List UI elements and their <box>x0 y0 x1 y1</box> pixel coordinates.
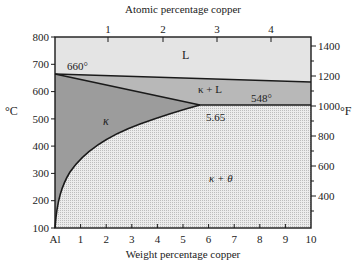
phase-diagram-chart: 800 700 600 500 400 300 200 100 °C 1400 … <box>0 0 356 263</box>
svg-text:6: 6 <box>206 233 212 245</box>
bottom-axis-labels: Al 1 2 3 4 5 6 7 8 9 10 <box>50 233 318 245</box>
svg-text:1: 1 <box>78 233 84 245</box>
svg-text:500: 500 <box>33 113 50 125</box>
svg-text:800: 800 <box>318 130 335 142</box>
svg-text:4: 4 <box>268 23 274 35</box>
melting-point-label: 660° <box>67 60 88 72</box>
right-axis-ticks <box>311 46 316 211</box>
right-axis-unit: °F <box>340 104 352 118</box>
region-label-kappa-plus-theta: κ + θ <box>209 172 233 184</box>
svg-text:3: 3 <box>129 233 135 245</box>
left-axis-labels: 800 700 600 500 400 300 200 100 <box>33 31 50 234</box>
svg-text:700: 700 <box>33 58 50 70</box>
svg-text:300: 300 <box>33 167 50 179</box>
region-label-liquid: L <box>182 48 189 62</box>
svg-text:2: 2 <box>160 23 166 35</box>
svg-text:400: 400 <box>33 140 50 152</box>
svg-text:1: 1 <box>105 23 111 35</box>
svg-text:2: 2 <box>103 233 109 245</box>
region-label-kappa-plus-liquid: κ + L <box>198 83 222 95</box>
svg-text:800: 800 <box>33 31 50 43</box>
svg-text:600: 600 <box>318 160 335 172</box>
max-solubility-label: 5.65 <box>206 111 226 123</box>
svg-text:8: 8 <box>257 233 263 245</box>
left-axis-unit: °C <box>5 104 18 118</box>
svg-text:Al: Al <box>50 233 61 245</box>
svg-text:4: 4 <box>155 233 161 245</box>
right-axis-labels: 1400 1200 1000 800 600 400 <box>318 40 341 202</box>
svg-text:600: 600 <box>33 85 50 97</box>
svg-text:3: 3 <box>214 23 220 35</box>
svg-text:1400: 1400 <box>318 40 341 52</box>
svg-text:9: 9 <box>283 233 289 245</box>
region-label-kappa: κ <box>103 114 109 128</box>
svg-text:1000: 1000 <box>318 100 341 112</box>
svg-text:400: 400 <box>318 190 335 202</box>
svg-text:7: 7 <box>231 233 237 245</box>
bottom-axis-title: Weight percentage copper <box>126 248 241 260</box>
top-axis-labels: 1 2 3 4 <box>105 23 274 35</box>
svg-text:100: 100 <box>33 222 50 234</box>
svg-text:10: 10 <box>306 233 318 245</box>
svg-text:1200: 1200 <box>318 70 341 82</box>
top-axis-title: Atomic percentage copper <box>125 3 241 15</box>
svg-text:200: 200 <box>33 194 50 206</box>
svg-text:5: 5 <box>180 233 186 245</box>
eutectic-temp-label: 548° <box>251 92 272 104</box>
